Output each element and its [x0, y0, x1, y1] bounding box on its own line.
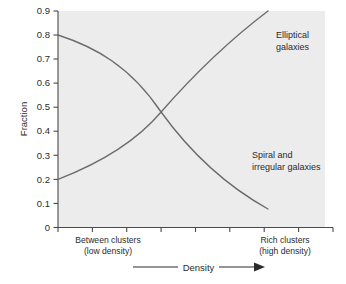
y-tick-label-0: 0 [45, 222, 50, 233]
y-tick-label-0.6: 0.6 [37, 77, 50, 88]
y-axis-ticks [54, 11, 59, 228]
galaxy-fraction-chart: 0 0.1 0.2 0.3 0.4 0.5 0.6 0.7 0.8 0.9 Fr… [0, 0, 346, 284]
y-axis-title: Fraction [18, 102, 29, 136]
x-axis-ticks [58, 228, 333, 233]
y-tick-label-0.3: 0.3 [37, 150, 50, 161]
y-tick-label-0.7: 0.7 [37, 53, 50, 64]
y-tick-label-0.9: 0.9 [37, 5, 50, 16]
x-category-left-line1: Between clusters [75, 235, 140, 245]
annotation-spiral-line1: Spiral and [252, 150, 293, 160]
x-category-label-left: Between clusters (low density) [75, 235, 140, 256]
y-axis-tick-labels: 0 0.1 0.2 0.3 0.4 0.5 0.6 0.7 0.8 0.9 [37, 5, 50, 232]
annotation-elliptical-line2: galaxies [276, 42, 310, 52]
y-tick-label-0.2: 0.2 [37, 174, 50, 185]
density-axis-label: Density [183, 262, 215, 273]
curve-spiral-irregular-galaxies [58, 35, 268, 209]
figure-container: 0 0.1 0.2 0.3 0.4 0.5 0.6 0.7 0.8 0.9 Fr… [0, 0, 346, 284]
annotation-elliptical-galaxies: Elliptical galaxies [276, 30, 310, 52]
x-category-left-line2: (low density) [84, 246, 132, 256]
x-category-right-line1: Rich clusters [260, 235, 309, 245]
y-tick-label-0.5: 0.5 [37, 101, 50, 112]
y-tick-label-0.4: 0.4 [37, 125, 50, 136]
curve-elliptical-galaxies [58, 11, 268, 179]
x-category-right-line2: (high density) [259, 246, 311, 256]
x-category-label-right: Rich clusters (high density) [259, 235, 311, 256]
annotation-spiral-line2: irregular galaxies [252, 162, 321, 172]
annotation-elliptical-line1: Elliptical [276, 30, 309, 40]
density-arrowhead-icon [254, 263, 265, 272]
density-axis-arrow: Density [133, 262, 265, 273]
annotation-spiral-irregular-galaxies: Spiral and irregular galaxies [252, 150, 321, 172]
y-tick-label-0.8: 0.8 [37, 29, 50, 40]
y-tick-label-0.1: 0.1 [37, 198, 50, 209]
